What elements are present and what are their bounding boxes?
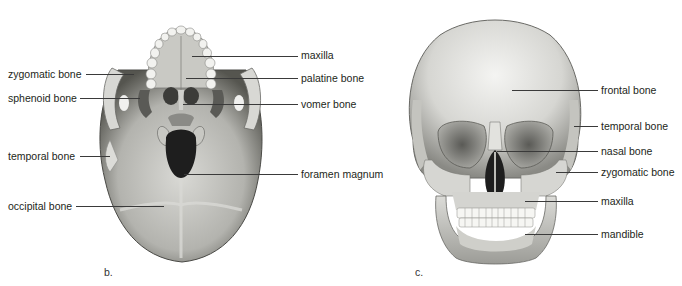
leader-line: [556, 172, 598, 173]
label-temporal-bone-c: temporal bone: [601, 120, 668, 132]
label-frontal-bone: frontal bone: [601, 84, 656, 96]
label-palatine-bone: palatine bone: [301, 72, 364, 84]
inferior-skull-drawing: [100, 26, 262, 262]
leader-line: [525, 201, 598, 202]
leader-line: [525, 234, 598, 235]
leader-line: [497, 151, 598, 152]
label-zygomatic-bone-c: zygomatic bone: [601, 166, 675, 178]
leader-line: [574, 126, 598, 127]
leader-line: [186, 78, 298, 79]
leader-line: [192, 56, 298, 57]
label-zygomatic-bone-b: zygomatic bone: [8, 68, 82, 80]
leader-line: [76, 206, 164, 207]
label-vomer-bone: vomer bone: [301, 98, 356, 110]
panel-letter-c: c.: [415, 266, 423, 278]
label-foramen-magnum: foramen magnum: [301, 168, 383, 180]
label-maxilla-b: maxilla: [301, 49, 334, 61]
skull-illustrations: [0, 0, 682, 286]
anterior-skull-drawing: [409, 20, 581, 264]
leader-line: [184, 174, 298, 175]
panel-letter-b: b.: [104, 266, 113, 278]
leader-line: [512, 90, 598, 91]
label-temporal-bone-b: temporal bone: [8, 150, 75, 162]
label-sphenoid-bone: sphenoid bone: [8, 92, 77, 104]
label-maxilla-c: maxilla: [601, 195, 634, 207]
label-nasal-bone: nasal bone: [601, 145, 652, 157]
leader-line: [86, 74, 134, 75]
leader-line: [183, 104, 298, 105]
leader-line: [80, 156, 110, 157]
label-mandible: mandible: [601, 228, 644, 240]
leader-line: [80, 98, 140, 99]
label-occipital-bone: occipital bone: [8, 200, 72, 212]
